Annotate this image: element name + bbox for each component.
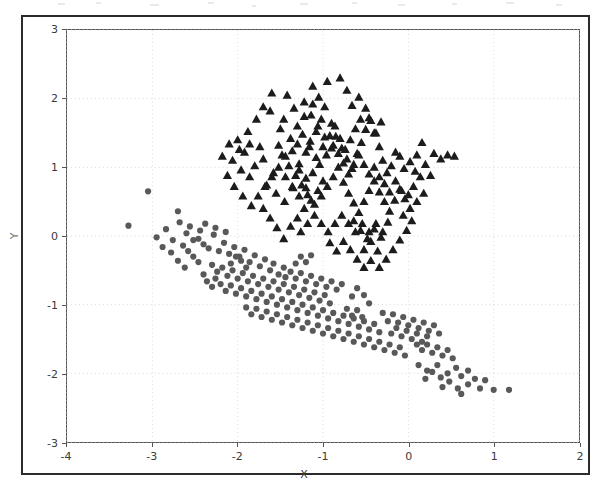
marker-triangle <box>284 161 293 169</box>
marker-triangle <box>235 145 244 153</box>
marker-triangle <box>267 88 276 96</box>
marker-circle <box>214 269 220 275</box>
marker-circle <box>315 322 321 328</box>
marker-triangle <box>317 115 326 123</box>
marker-circle <box>434 344 440 350</box>
marker-circle <box>185 248 191 254</box>
marker-triangle <box>357 138 366 146</box>
marker-triangle <box>346 245 355 253</box>
y-tick-mark <box>62 443 66 444</box>
x-tick-label: -1 <box>318 451 329 462</box>
marker-circle <box>349 313 355 319</box>
marker-circle <box>255 281 261 287</box>
marker-triangle <box>354 208 363 216</box>
marker-triangle <box>395 235 404 243</box>
scatter-plot-figure: -4-3-2-1012-3-2-10123 X Y <box>0 0 608 499</box>
marker-triangle <box>280 197 289 205</box>
marker-triangle <box>378 227 387 235</box>
marker-circle <box>424 333 430 339</box>
marker-circle <box>279 296 285 302</box>
marker-circle <box>226 251 232 257</box>
marker-triangle <box>450 152 459 160</box>
y-tick-mark <box>62 374 66 375</box>
marker-circle <box>351 339 357 345</box>
marker-circle <box>281 265 287 271</box>
marker-circle <box>313 281 319 287</box>
marker-triangle <box>387 161 396 169</box>
marker-triangle <box>271 189 280 197</box>
marker-triangle <box>325 238 334 246</box>
marker-triangle <box>366 256 375 264</box>
marker-triangle <box>312 153 321 161</box>
marker-triangle <box>421 160 430 168</box>
marker-triangle <box>412 150 421 158</box>
marker-triangle <box>429 149 438 157</box>
marker-circle <box>419 347 425 353</box>
marker-triangle <box>272 223 281 231</box>
marker-triangle <box>332 246 341 254</box>
marker-circle <box>218 281 224 287</box>
x-tick-mark <box>237 443 238 447</box>
marker-circle <box>250 273 256 279</box>
marker-circle <box>274 311 280 317</box>
marker-circle <box>243 304 249 310</box>
marker-triangle <box>303 219 312 227</box>
marker-circle <box>159 244 165 250</box>
marker-circle <box>334 286 340 292</box>
marker-triangle <box>318 142 327 150</box>
x-tick-mark <box>66 443 67 447</box>
marker-circle <box>340 336 346 342</box>
marker-circle <box>180 243 186 249</box>
marker-circle <box>284 304 290 310</box>
x-tick-label: 1 <box>491 451 498 462</box>
marker-circle <box>366 326 372 332</box>
marker-circle <box>359 314 365 320</box>
marker-circle <box>282 274 288 280</box>
marker-circle <box>200 241 206 247</box>
marker-circle <box>245 278 251 284</box>
x-axis-label: X <box>0 468 608 481</box>
marker-circle <box>380 310 386 316</box>
marker-circle <box>339 281 345 287</box>
marker-circle <box>325 325 331 331</box>
marker-circle <box>322 292 328 298</box>
marker-circle <box>438 374 444 380</box>
marker-circle <box>392 350 398 356</box>
marker-circle <box>168 249 174 255</box>
marker-circle <box>444 347 450 353</box>
marker-circle <box>206 245 212 251</box>
marker-circle <box>293 275 299 281</box>
marker-triangle <box>443 150 452 158</box>
marker-triangle <box>293 121 302 129</box>
marker-circle <box>330 333 336 339</box>
marker-circle <box>444 370 450 376</box>
marker-triangle <box>247 201 256 209</box>
x-tick-label: 2 <box>577 451 584 462</box>
marker-circle <box>294 317 300 323</box>
marker-triangle <box>245 172 254 180</box>
marker-circle <box>482 377 488 383</box>
marker-triangle <box>349 216 358 224</box>
x-tick-mark <box>580 443 581 447</box>
marker-circle <box>293 260 299 266</box>
marker-circle <box>328 278 334 284</box>
marker-triangle <box>283 91 292 99</box>
marker-triangle <box>370 163 379 171</box>
marker-circle <box>340 313 346 319</box>
marker-triangle <box>324 227 333 235</box>
marker-circle <box>330 310 336 316</box>
marker-circle <box>177 219 183 225</box>
marker-triangle <box>323 77 332 85</box>
marker-circle <box>212 275 218 281</box>
marker-triangle <box>375 142 384 150</box>
x-tick-mark <box>152 443 153 447</box>
marker-circle <box>240 270 246 276</box>
marker-triangle <box>255 142 264 150</box>
y-tick-mark <box>62 98 66 99</box>
marker-circle <box>308 273 314 279</box>
marker-circle <box>289 322 295 328</box>
marker-circle <box>264 308 270 314</box>
marker-circle <box>258 314 264 320</box>
plot-axes-area <box>66 29 580 443</box>
x-tick-mark <box>323 443 324 447</box>
